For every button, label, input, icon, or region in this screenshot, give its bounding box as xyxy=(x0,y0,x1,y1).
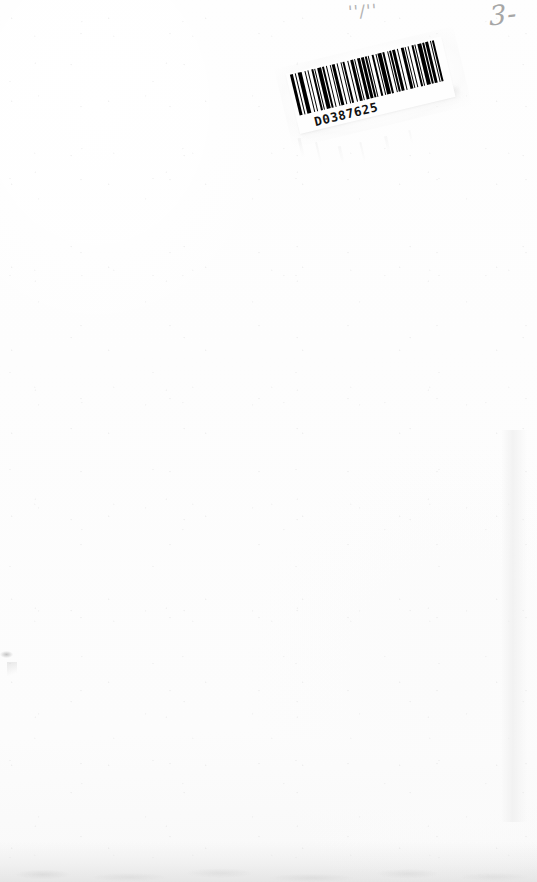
right-tonal-band xyxy=(501,430,527,822)
left-edge-smudge xyxy=(0,651,13,658)
handwritten-fraction-mark: ''/'' xyxy=(347,0,378,22)
bottom-mottle-texture xyxy=(0,848,537,882)
scanned-page: ''/'' 3- D0387625 xyxy=(0,0,537,882)
paper-speckle-texture xyxy=(0,0,537,882)
handwritten-page-number: 3- xyxy=(489,0,518,32)
left-edge-smudge-tail xyxy=(7,662,17,678)
